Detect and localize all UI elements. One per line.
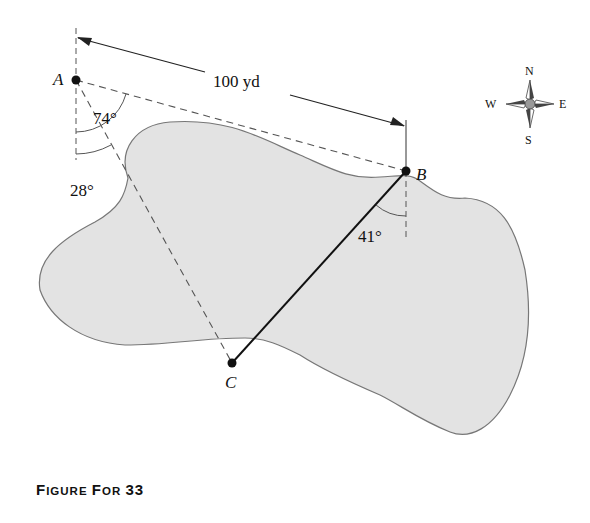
point-a bbox=[72, 76, 81, 85]
figure-caption: FIGURE FOR 33 bbox=[36, 481, 144, 498]
compass-rose-icon bbox=[506, 80, 554, 128]
angle-label-28: 28° bbox=[70, 182, 94, 199]
angle-label-41: 41° bbox=[358, 228, 382, 245]
compass-s: S bbox=[525, 133, 532, 148]
angle-label-74: 74° bbox=[93, 110, 117, 127]
figure-canvas: A B C 100 yd 74° 28° 41° N S E W FIGURE … bbox=[0, 0, 590, 523]
angle-arc-28 bbox=[76, 145, 111, 154]
arrowhead-left bbox=[77, 37, 92, 46]
point-c bbox=[228, 359, 237, 368]
distance-label: 100 yd bbox=[213, 73, 260, 90]
point-b bbox=[402, 167, 411, 176]
label-b: B bbox=[416, 166, 426, 183]
label-a: A bbox=[53, 71, 63, 88]
island-shape bbox=[39, 121, 528, 434]
diagram-svg bbox=[0, 0, 590, 523]
arrowhead-right bbox=[390, 117, 405, 126]
compass-e: E bbox=[559, 97, 566, 112]
dimension-line-left bbox=[78, 38, 205, 72]
compass-w: W bbox=[485, 97, 496, 112]
compass-n: N bbox=[525, 64, 534, 79]
dimension-line-right bbox=[290, 95, 404, 126]
label-c: C bbox=[225, 374, 236, 391]
